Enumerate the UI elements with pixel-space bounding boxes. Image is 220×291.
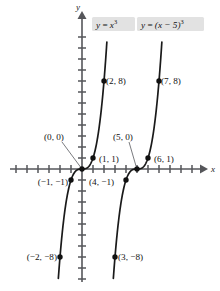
point-label-3-neg8: (3, −8)	[118, 252, 143, 262]
x-axis-arrow	[200, 165, 208, 174]
plotted-point	[123, 177, 128, 182]
eq2-exponent: 3	[180, 18, 183, 25]
plotted-point	[57, 254, 62, 259]
y-axis-label: y	[75, 2, 80, 12]
point-label-2-8: (2, 8)	[106, 76, 126, 86]
point-label-neg1-neg1: (−1, −1)	[38, 177, 68, 187]
x-axis-label: x	[210, 164, 215, 174]
eq1-exponent: 3	[114, 18, 117, 25]
plotted-point	[68, 177, 73, 182]
point-label-7-8: (7, 8)	[161, 76, 181, 86]
plotted-point	[90, 155, 95, 160]
point-label-4-neg1: (4, −1)	[89, 177, 114, 187]
point-label-0-0: (0, 0)	[44, 132, 64, 142]
point-label-neg2-neg8: (−2, −8)	[27, 252, 57, 262]
leader-line-origin	[62, 142, 81, 167]
eq2-equals: =	[145, 20, 155, 30]
equation-label-1-text: y = x3	[95, 18, 117, 30]
plotted-point	[112, 254, 117, 259]
leader-line-five-zero	[129, 142, 136, 166]
axes-group	[10, 11, 208, 282]
point-label-1-1: (1, 1)	[99, 154, 119, 164]
point-label-5-0: (5, 0)	[113, 132, 133, 142]
y-axis-arrow	[78, 11, 87, 19]
equation-label-2: y = (x − 5)3	[137, 17, 204, 31]
eq1-equals: =	[100, 20, 110, 30]
graph-figure: x y y = x3 y = (x − 5)3 (2, 8) (7, 8) (1…	[0, 0, 220, 291]
point-label-6-1: (6, 1)	[154, 154, 174, 164]
plotted-point	[145, 155, 150, 160]
eq2-base: (x − 5)	[155, 20, 181, 30]
plotted-point	[134, 166, 139, 171]
equation-label-1: y = x3	[92, 17, 135, 31]
equation-label-2-text: y = (x − 5)3	[140, 18, 184, 30]
plotted-point	[79, 166, 84, 171]
